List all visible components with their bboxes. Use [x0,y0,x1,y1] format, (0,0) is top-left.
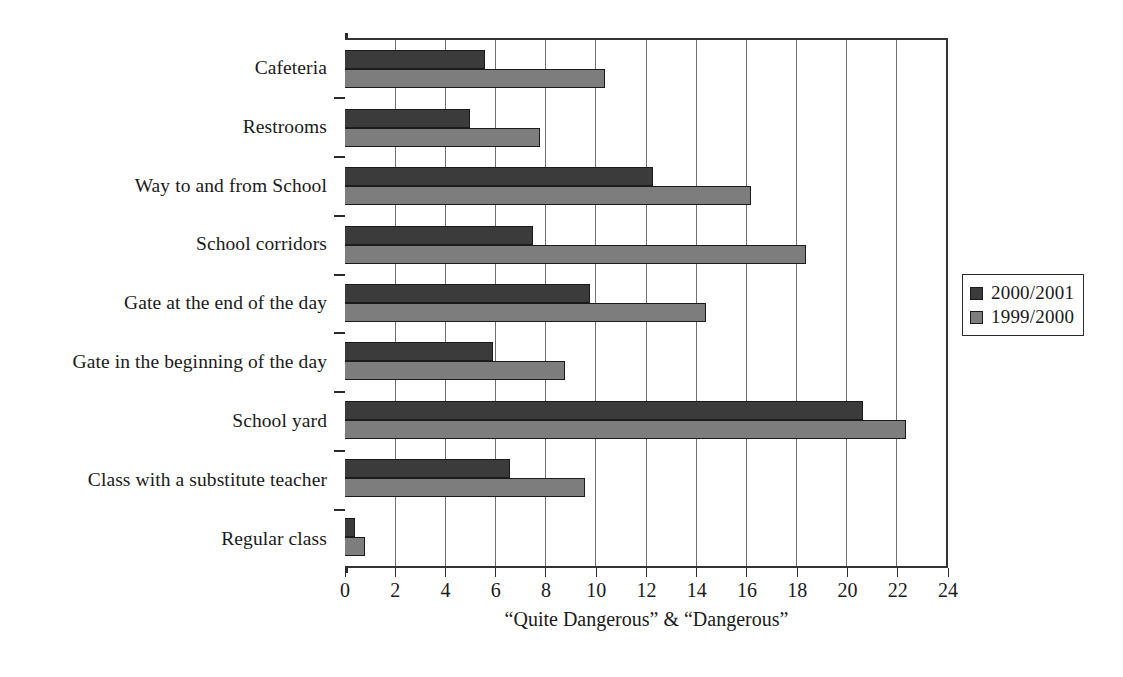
x-axis-tick-label: 4 [441,579,451,602]
category-label: Restrooms [0,97,336,156]
bar [345,303,706,322]
x-axis-tick-label: 10 [586,579,606,602]
category-axis-labels: CafeteriaRestroomsWay to and from School… [0,38,336,568]
legend-item[interactable]: 1999/2000 [970,305,1074,329]
chart-legend: 2000/20011999/2000 [962,274,1084,336]
x-axis-title: “Quite Dangerous” & “Dangerous” [345,608,948,631]
plot-area [345,38,948,568]
x-axis-tick [746,568,747,577]
x-axis-tick [897,568,898,577]
x-axis-tick-label: 20 [838,579,858,602]
x-axis-tick-label: 12 [637,579,657,602]
category-label: School corridors [0,215,336,274]
bar [345,284,590,303]
x-axis-tick [797,568,798,577]
x-axis-tick [847,568,848,577]
y-axis-tick [334,156,345,158]
y-axis-tick [334,274,345,276]
bar [345,245,806,264]
legend-label: 2000/2001 [991,282,1074,304]
bar [345,186,751,205]
bar-group [345,274,946,332]
bar [345,226,533,245]
bar-group [345,98,946,156]
x-axis-tick [646,568,647,577]
x-axis-tick [345,568,346,577]
bar [345,50,485,69]
x-axis-tick [495,568,496,577]
bar-group [345,508,946,566]
bar [345,167,653,186]
category-label: Class with a substitute teacher [0,450,336,509]
legend-item[interactable]: 2000/2001 [970,281,1074,305]
bar [345,401,863,420]
x-axis-tick-label: 14 [687,579,707,602]
x-axis-tick [948,568,949,577]
y-axis-tick [334,509,345,511]
bar-group [345,391,946,449]
x-axis-tick-label: 6 [491,579,501,602]
bar-group [345,40,946,98]
x-axis-tick-label: 24 [938,579,958,602]
bar-group [345,157,946,215]
x-axis-tick-label: 8 [541,579,551,602]
y-axis-tick [334,332,345,334]
x-axis-tick [696,568,697,577]
bar [345,69,605,88]
y-axis-tick [334,215,345,217]
bar-group [345,332,946,390]
category-label: Gate in the beginning of the day [0,332,336,391]
bar [345,459,510,478]
bar [345,342,493,361]
x-axis-tick [545,568,546,577]
x-axis-tick-label: 0 [340,579,350,602]
x-axis-tick-label: 2 [390,579,400,602]
legend-label: 1999/2000 [991,306,1074,328]
legend-swatch-icon [970,311,983,324]
category-label: Gate at the end of the day [0,274,336,333]
x-axis-tick-label: 22 [888,579,908,602]
bar [345,537,365,556]
y-axis-tick [334,450,345,452]
bar-group [345,215,946,273]
value-axis: 024681012141618202224 [345,568,948,608]
legend-swatch-icon [970,287,983,300]
x-axis-tick [596,568,597,577]
bar [345,128,540,147]
category-label: Way to and from School [0,156,336,215]
x-axis-tick-label: 16 [737,579,757,602]
bar [345,109,470,128]
x-axis-tick-label: 18 [787,579,807,602]
y-axis-tick [334,391,345,393]
category-label: Regular class [0,509,336,568]
bar-chart: CafeteriaRestroomsWay to and from School… [0,0,1123,677]
y-axis-tick [334,97,345,99]
x-axis-tick [445,568,446,577]
bars-layer [345,40,946,566]
bar-group [345,449,946,507]
bar [345,478,585,497]
x-axis-tick [395,568,396,577]
bar [345,420,906,439]
bar [345,361,565,380]
category-label: Cafeteria [0,38,336,97]
category-label: School yard [0,391,336,450]
bar [345,518,355,537]
